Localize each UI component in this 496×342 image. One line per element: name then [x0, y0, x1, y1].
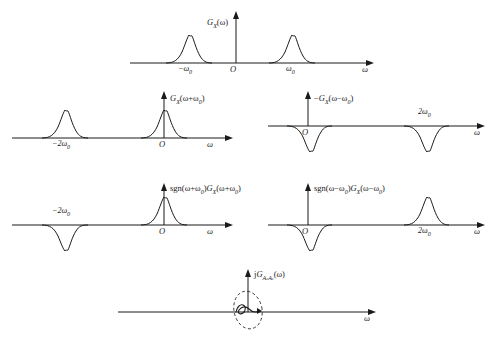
label-arg: (ω−ω [360, 183, 379, 193]
panel-sgn-right-label: sgn(ω−ω0)GX(ω−ω0) [314, 184, 385, 195]
residue-arrow [257, 308, 262, 314]
panel-gx-shift-right-neg-axis-label: ω [474, 128, 480, 137]
label-arg-end: ) [238, 183, 241, 193]
lobe-origin-negative [287, 225, 332, 251]
tick-sub: 0 [67, 211, 70, 217]
y-axis-arrow [161, 91, 167, 99]
label-arg: (ω+ω [216, 183, 235, 193]
x-axis-arrow [225, 135, 233, 141]
label-arg: (ω+ω [180, 93, 199, 103]
panel-sgn-right-axis-label: ω [474, 227, 480, 236]
tick-sub: 0 [428, 231, 431, 237]
panel-gx-shift-left-axis-label: ω [207, 140, 213, 149]
label-fn: sgn(ω−ω [314, 183, 345, 193]
panel-jg-cross-plot [118, 268, 378, 336]
tick-text: −2ω [52, 139, 67, 148]
label-arg-end: ) [350, 93, 353, 103]
panel-sgn-right-origin: O [302, 227, 308, 236]
label-arg-end: ) [202, 93, 205, 103]
panel-gx-axis-label: ω [362, 65, 368, 74]
panel-gx-shift-left: GX(ω+ω0) O −2ω0 ω [12, 88, 234, 150]
panel-gx-label-arg: (ω) [217, 17, 228, 27]
tick-text: −ω [178, 64, 189, 73]
label-arg: (ω−ω [329, 93, 348, 103]
lobe-2w0-positive [404, 197, 449, 225]
tick-sub: 0 [428, 112, 431, 118]
panel-gx-shift-right-neg-origin: O [302, 128, 308, 137]
panel-gx-shift-right-neg-tick: 2ω0 [418, 108, 431, 118]
panel-sgn-right-tick: 2ω0 [418, 227, 431, 237]
tick-sub: 0 [292, 69, 295, 75]
y-axis-arrow [305, 91, 311, 99]
panel-gx-shift-right-neg: −GX(ω−ω0) O 2ω0 ω [268, 88, 486, 154]
panel-gx-label: GX(ω) [207, 18, 228, 29]
panel-sgn-left: sgn(ω+ω0)GX(ω+ω0) O −2ω0 ω [12, 182, 234, 254]
label-sub-group: AcAs [263, 275, 274, 281]
lobe-origin-negative [287, 126, 332, 152]
panel-gx-shift-left-origin: O [159, 140, 165, 149]
panel-sgn-left-origin: O [159, 227, 165, 236]
panel-sgn-right: sgn(ω−ω0)GX(ω−ω0) O 2ω0 ω [268, 182, 486, 254]
lobe-negative-w0 [166, 35, 212, 63]
panel-sgn-left-tick: −2ω0 [52, 207, 70, 217]
panel-gx-tick-pos: ω0 [286, 65, 295, 75]
panel-jg-cross: jGAcAs(ω) ω [118, 268, 378, 336]
panel-gx-plot [130, 8, 375, 73]
y-axis-arrow [305, 183, 311, 191]
y-axis-arrow [161, 183, 167, 191]
tick-sub: 0 [67, 144, 70, 150]
panel-jg-cross-axis-label: ω [364, 314, 370, 323]
tick-text: 2ω [418, 226, 428, 235]
panel-sgn-left-axis-label: ω [207, 227, 213, 236]
x-axis-arrow [225, 222, 233, 228]
panel-gx-shift-left-tick: −2ω0 [52, 140, 70, 150]
panel-jg-cross-label: jGAcAs(ω) [254, 270, 285, 281]
label-fn: sgn(ω+ω [170, 183, 201, 193]
panel-gx-shift-right-neg-plot [268, 88, 486, 154]
lobe-negative-2w0 [42, 110, 88, 138]
y-axis-arrow [245, 269, 251, 277]
panel-gx-shift-right-neg-label: −GX(ω−ω0) [314, 94, 353, 105]
lobe-2w0-negative [404, 126, 449, 152]
lobe-negative-2w0-inverted [42, 225, 88, 251]
panel-sgn-left-label: sgn(ω+ω0)GX(ω+ω0) [170, 184, 241, 195]
tick-text: 2ω [418, 107, 428, 116]
tick-text: −2ω [52, 206, 67, 215]
panel-gx-tick-neg: −ω0 [178, 65, 192, 75]
label-arg: (ω) [274, 269, 285, 279]
panel-gx: GX(ω) O −ω0 ω0 ω [130, 8, 375, 73]
panel-gx-shift-left-label: GX(ω+ω0) [170, 94, 204, 105]
label-arg-end: ) [382, 183, 385, 193]
tick-sub: 0 [189, 69, 192, 75]
panel-gx-origin: O [230, 65, 236, 74]
lobe-positive-w0 [269, 35, 315, 63]
y-axis-arrow [233, 11, 239, 19]
